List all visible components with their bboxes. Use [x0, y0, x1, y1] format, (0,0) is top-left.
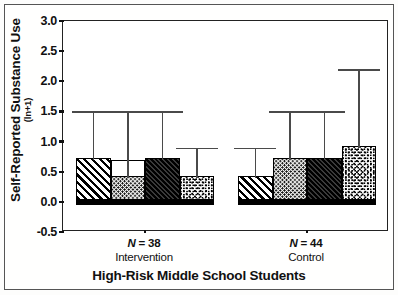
figure-container: Self-Reported Substance Use (ln+1) 3.02.… [0, 0, 398, 295]
bar-bar-3-intervention [145, 158, 180, 200]
y-axis-tick [59, 50, 64, 52]
bar-bar-2-intervention [111, 176, 146, 200]
y-axis-title: Self-Reported Substance Use (ln+1) [9, 5, 33, 215]
y-axis-tick-label: 0.5 [41, 165, 57, 179]
y-axis-tick [59, 231, 64, 233]
group-sample-size: N = 38 [84, 237, 204, 249]
y-axis-tick-label: 2.5 [41, 44, 57, 58]
group-annotation-control: N = 44Control [246, 237, 366, 263]
y-axis-tick [59, 201, 64, 203]
y-axis-tick [59, 140, 64, 142]
plot-area: 3.02.52.01.51.00.50.0-0.5 [62, 20, 388, 231]
error-bar-stem [93, 111, 95, 159]
y-axis-tick-label: 3.0 [41, 14, 57, 28]
bar-bar-3-control [307, 158, 342, 200]
x-axis-title: High-Risk Middle School Students [0, 268, 398, 283]
error-bar-stem [196, 148, 198, 178]
y-axis-tick [59, 171, 64, 173]
error-bar-stem [255, 148, 257, 178]
bar-bar-1-control [238, 176, 273, 200]
error-bar-stem [289, 111, 291, 159]
y-axis-tick [59, 110, 64, 112]
y-axis-tick-label: 0.0 [41, 195, 57, 209]
error-bar-cap [303, 111, 345, 113]
group-baseline [238, 200, 376, 205]
y-axis-tick-label: 2.0 [41, 74, 57, 88]
group-baseline [76, 200, 214, 205]
bar-bar-4-control [342, 146, 377, 200]
y-axis-tick-label: -0.5 [37, 225, 57, 239]
y-axis-tick [59, 80, 64, 82]
y-axis-tick-label: 1.5 [41, 104, 57, 118]
error-bar-cap [141, 111, 183, 113]
group-name: Intervention [84, 251, 204, 263]
error-bar-cap [234, 148, 276, 150]
group-sample-size: N = 44 [246, 237, 366, 249]
group-annotation-intervention: N = 38Intervention [84, 237, 204, 263]
error-bar-cap [176, 148, 218, 150]
error-bar-stem [358, 69, 360, 147]
error-bar-stem [162, 111, 164, 159]
y-axis-title-subtext: (ln+1) [23, 5, 33, 215]
error-bar-cap [338, 69, 380, 71]
bar-bar-2-control [273, 158, 308, 200]
error-bar-stem [324, 111, 326, 159]
bar-bar-4-intervention [180, 176, 215, 200]
error-bar-stem [127, 111, 129, 177]
y-axis-tick-label: 1.0 [41, 135, 57, 149]
bar-bar-1-intervention [76, 158, 111, 200]
group-name: Control [246, 251, 366, 263]
x-axis-tick [144, 230, 147, 233]
y-axis-title-text: Self-Reported Substance Use [8, 18, 23, 202]
x-axis-tick [306, 230, 309, 233]
y-axis-tick [59, 20, 64, 22]
